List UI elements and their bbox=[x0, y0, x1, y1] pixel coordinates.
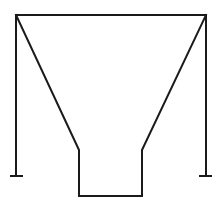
funnel-outline bbox=[16, 15, 206, 196]
hopper-diagram bbox=[0, 0, 222, 211]
